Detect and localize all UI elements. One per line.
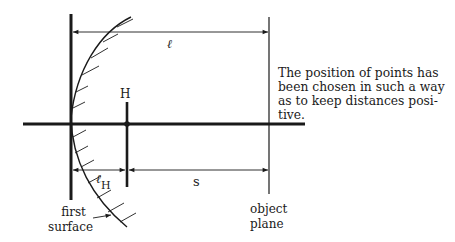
note-line-3: as to keep distances posi- xyxy=(278,94,453,108)
label-surface: surface xyxy=(48,220,93,235)
label-object-plane: object plane xyxy=(250,202,287,232)
note-line-1: The position of points has xyxy=(278,66,453,80)
label-lh: ℓH xyxy=(96,173,111,185)
label-first: first xyxy=(48,205,93,220)
label-plane: plane xyxy=(250,217,287,232)
first-surface-pointer xyxy=(93,215,111,218)
label-s: s xyxy=(193,175,200,188)
note-line-2: been chosen in such a way xyxy=(278,80,453,94)
label-first-surface: first surface xyxy=(48,205,93,235)
note-line-4: tive. xyxy=(278,108,453,122)
label-lh-sub: H xyxy=(101,179,111,192)
principal-point-dot xyxy=(124,121,130,127)
explanatory-note: The position of points has been chosen i… xyxy=(278,66,453,122)
label-object: object xyxy=(250,202,287,217)
label-h: H xyxy=(120,88,130,100)
label-l: ℓ xyxy=(167,38,172,50)
